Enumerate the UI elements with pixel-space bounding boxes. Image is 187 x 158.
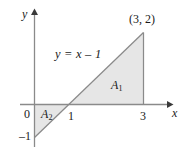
vertex-point-label: (3, 2) [129,13,155,25]
line-equation-label: y = x – 1 [55,48,101,61]
area-label-a2: A2 [41,108,52,120]
tick-label-origin: 0 [24,108,30,120]
x-axis-label: x [172,107,177,119]
y-axis-label: y [22,8,27,20]
tick-label-x-3: 3 [140,110,146,122]
tick-label-x-1: 1 [68,110,74,122]
y-axis-arrowhead [31,9,38,16]
area-label-a2-subscript: 2 [49,113,53,122]
area-label-a1: A1 [111,79,122,91]
area-label-a2-letter: A [41,107,48,121]
figure-container: y x (3, 2) y = x – 1 A1 A2 0 1 3 –1 [0,0,187,158]
area-label-a1-letter: A [111,78,118,92]
area-label-a1-subscript: 1 [119,84,123,93]
tick-label-y-neg1: –1 [19,130,31,142]
